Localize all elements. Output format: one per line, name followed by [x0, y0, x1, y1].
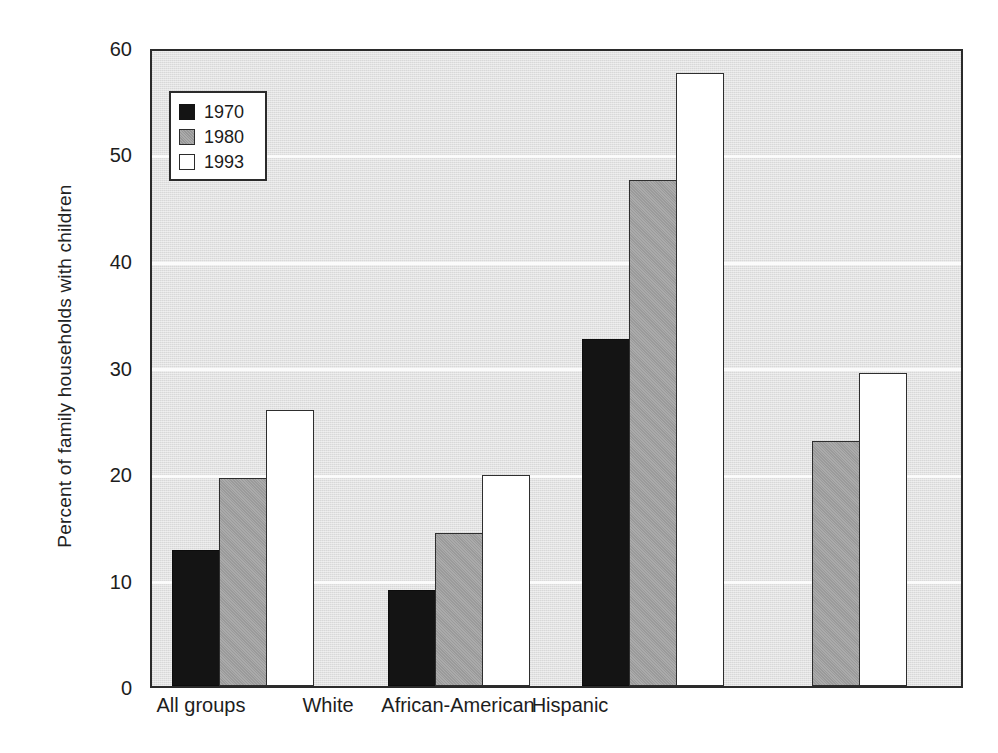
plot-area: 1970 1980 1993: [150, 49, 963, 688]
legend-item-1970: 1970: [179, 99, 257, 124]
bar-african-american-1980: [629, 180, 677, 686]
bar-all-groups-1993: [266, 410, 314, 686]
bar-white-1980: [435, 533, 483, 686]
x-tick-african-american: African-American: [381, 694, 534, 717]
y-tick-40: 40: [22, 251, 132, 274]
bar-hispanic-1980: [812, 441, 860, 686]
y-tick-20: 20: [22, 464, 132, 487]
gridline-30: [152, 368, 961, 371]
y-axis-tick-labels: 60 50 40 30 20 10 0: [22, 0, 132, 753]
bar-white-1993: [482, 475, 530, 686]
x-tick-white: White: [302, 694, 353, 717]
y-tick-30: 30: [22, 358, 132, 381]
legend-label-1980: 1980: [204, 128, 244, 146]
bar-all-groups-1970: [172, 550, 220, 686]
legend-label-1993: 1993: [204, 153, 244, 171]
bar-african-american-1970: [582, 339, 630, 686]
y-tick-60: 60: [22, 38, 132, 61]
gridline-50: [152, 155, 961, 158]
bar-chart-figure: Percent of family households with childr…: [0, 0, 998, 753]
legend-swatch-1970-icon: [179, 104, 195, 120]
y-tick-10: 10: [22, 571, 132, 594]
x-tick-hispanic: Hispanic: [532, 694, 609, 717]
legend-item-1993: 1993: [179, 149, 257, 174]
legend-item-1980: 1980: [179, 124, 257, 149]
x-tick-all-groups: All groups: [157, 694, 246, 717]
bar-african-american-1993: [676, 73, 724, 686]
legend-swatch-1993-icon: [179, 154, 195, 170]
legend-label-1970: 1970: [204, 103, 244, 121]
bar-white-1970: [388, 590, 436, 686]
legend: 1970 1980 1993: [169, 91, 267, 181]
bar-hispanic-1993: [859, 373, 907, 686]
y-tick-0: 0: [22, 677, 132, 700]
legend-swatch-1980-icon: [179, 129, 195, 145]
y-tick-50: 50: [22, 144, 132, 167]
x-axis-tick-labels: All groups White African-American Hispan…: [150, 694, 963, 734]
bar-all-groups-1980: [219, 478, 267, 686]
gridline-40: [152, 262, 961, 265]
